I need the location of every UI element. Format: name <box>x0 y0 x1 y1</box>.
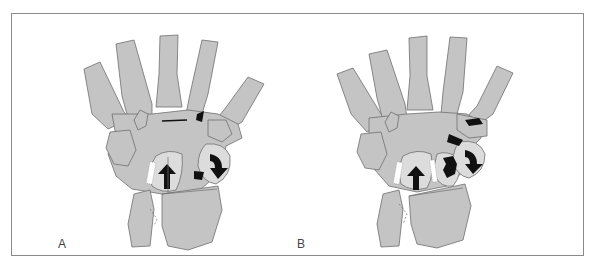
wrist-illustration-a <box>12 14 302 257</box>
panel-b: B <box>297 14 587 257</box>
panel-label-a: A <box>58 237 66 251</box>
figure-frame: A B <box>11 13 584 256</box>
panel-label-b: B <box>297 237 305 251</box>
wrist-illustration-b <box>297 14 587 257</box>
panel-a: A <box>12 14 302 257</box>
